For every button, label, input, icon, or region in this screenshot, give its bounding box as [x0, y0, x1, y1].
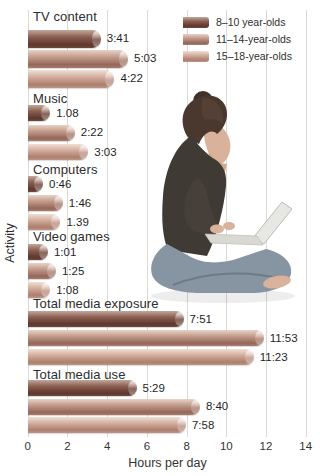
x-tick-label: 6: [144, 440, 150, 452]
x-tick-label: 4: [104, 440, 110, 452]
y-axis-title: Activity: [3, 193, 17, 293]
figure-canvas: TV content3:415:034:22Music1.082:223:03C…: [0, 0, 320, 476]
x-axis-title: Hours per day: [28, 456, 307, 470]
x-tick-label: 14: [299, 440, 312, 452]
x-tick-label: 8: [183, 440, 189, 452]
x-tick-label: 12: [260, 440, 273, 452]
x-tick-label: 2: [64, 440, 70, 452]
x-tick-label: 0: [24, 440, 30, 452]
x-tick-label: 10: [220, 440, 233, 452]
x-axis: 02468101214: [0, 0, 320, 476]
